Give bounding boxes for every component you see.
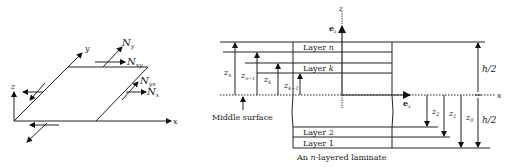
z-axis-label-right: z bbox=[338, 5, 343, 13]
y-axis bbox=[14, 53, 82, 121]
y-axis-label: y bbox=[84, 44, 90, 53]
zk-1-label: zk−1 bbox=[283, 81, 299, 91]
layer-k-label: Layer k bbox=[303, 64, 334, 73]
ny-bottom-neg-arrow bbox=[27, 123, 47, 142]
h2-top-label: h/2 bbox=[482, 64, 497, 74]
zn-label: zn bbox=[223, 68, 231, 78]
nx-label: Nx bbox=[146, 86, 160, 98]
layer-n-label: Layer n bbox=[303, 43, 334, 52]
zk-label: zk bbox=[263, 75, 271, 85]
ex-label: ex bbox=[403, 98, 411, 109]
laminate-diagram bbox=[220, 10, 495, 148]
middle-surface-label: Middle surface bbox=[212, 113, 273, 122]
ez-label: ez bbox=[329, 23, 337, 34]
z-axis-label: z bbox=[10, 82, 16, 91]
layer-1-label: Layer 1 bbox=[303, 139, 334, 148]
figure-caption: An n-layered laminate bbox=[296, 153, 387, 162]
x-axis-label: x bbox=[173, 117, 178, 126]
z2-label: z2 bbox=[431, 107, 439, 117]
ny-arrow bbox=[103, 47, 122, 67]
h2-bottom-label: h/2 bbox=[482, 115, 497, 125]
z0-label: z0 bbox=[465, 113, 474, 123]
laminate-figure: y z x Ny Nxy Nyx Nx bbox=[0, 0, 509, 167]
ny-label: Ny bbox=[121, 37, 135, 50]
zn-1-label: zn−1 bbox=[240, 71, 255, 81]
layer-2-label: Layer 2 bbox=[303, 128, 334, 137]
x-axis-label-right: x bbox=[497, 91, 502, 100]
z1-label: z1 bbox=[448, 109, 456, 119]
